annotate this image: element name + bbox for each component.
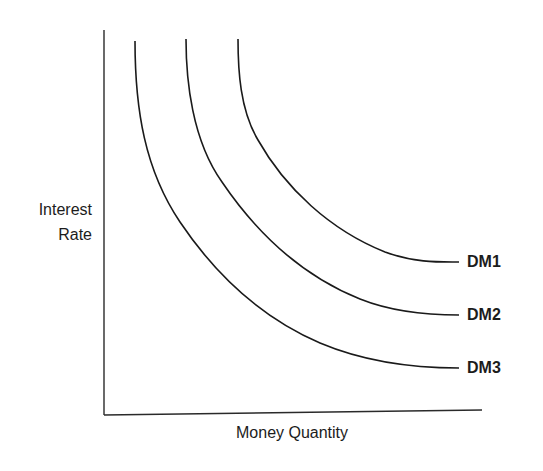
curve-dm3 bbox=[135, 41, 459, 368]
y-axis-label-line2: Rate bbox=[39, 222, 92, 247]
series-label-dm1: DM1 bbox=[467, 253, 501, 271]
series-label-dm2: DM2 bbox=[467, 306, 501, 324]
curve-dm2 bbox=[186, 39, 459, 315]
y-axis-label: Interest Rate bbox=[39, 197, 92, 247]
series-label-dm3: DM3 bbox=[467, 359, 501, 377]
curve-dm1 bbox=[238, 39, 459, 262]
x-axis-label: Money Quantity bbox=[236, 424, 348, 442]
x-axis bbox=[104, 410, 482, 415]
y-axis-label-line1: Interest bbox=[39, 197, 92, 222]
